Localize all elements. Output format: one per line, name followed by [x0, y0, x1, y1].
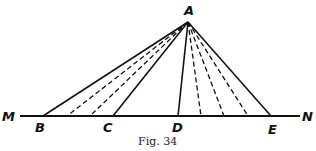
label-c: C	[103, 120, 113, 135]
dashed-segment	[90, 22, 188, 116]
dashed-segment	[188, 22, 248, 116]
segment-ad	[178, 22, 188, 116]
label-e: E	[268, 122, 277, 137]
segment-ae	[188, 22, 271, 116]
label-b: B	[35, 120, 45, 135]
label-m: M	[2, 109, 15, 124]
geometry-diagram: A M N B C D E Fig. 34	[0, 0, 316, 151]
segment-ab	[43, 22, 188, 116]
solid-segments	[43, 22, 271, 116]
segment-ac	[113, 22, 188, 116]
figure-caption: Fig. 34	[138, 135, 177, 148]
label-d: D	[172, 120, 183, 135]
dashed-segments	[67, 22, 248, 116]
label-n: N	[302, 109, 313, 124]
dashed-segment	[188, 22, 201, 116]
dashed-segment	[67, 22, 188, 116]
label-a: A	[183, 3, 194, 18]
